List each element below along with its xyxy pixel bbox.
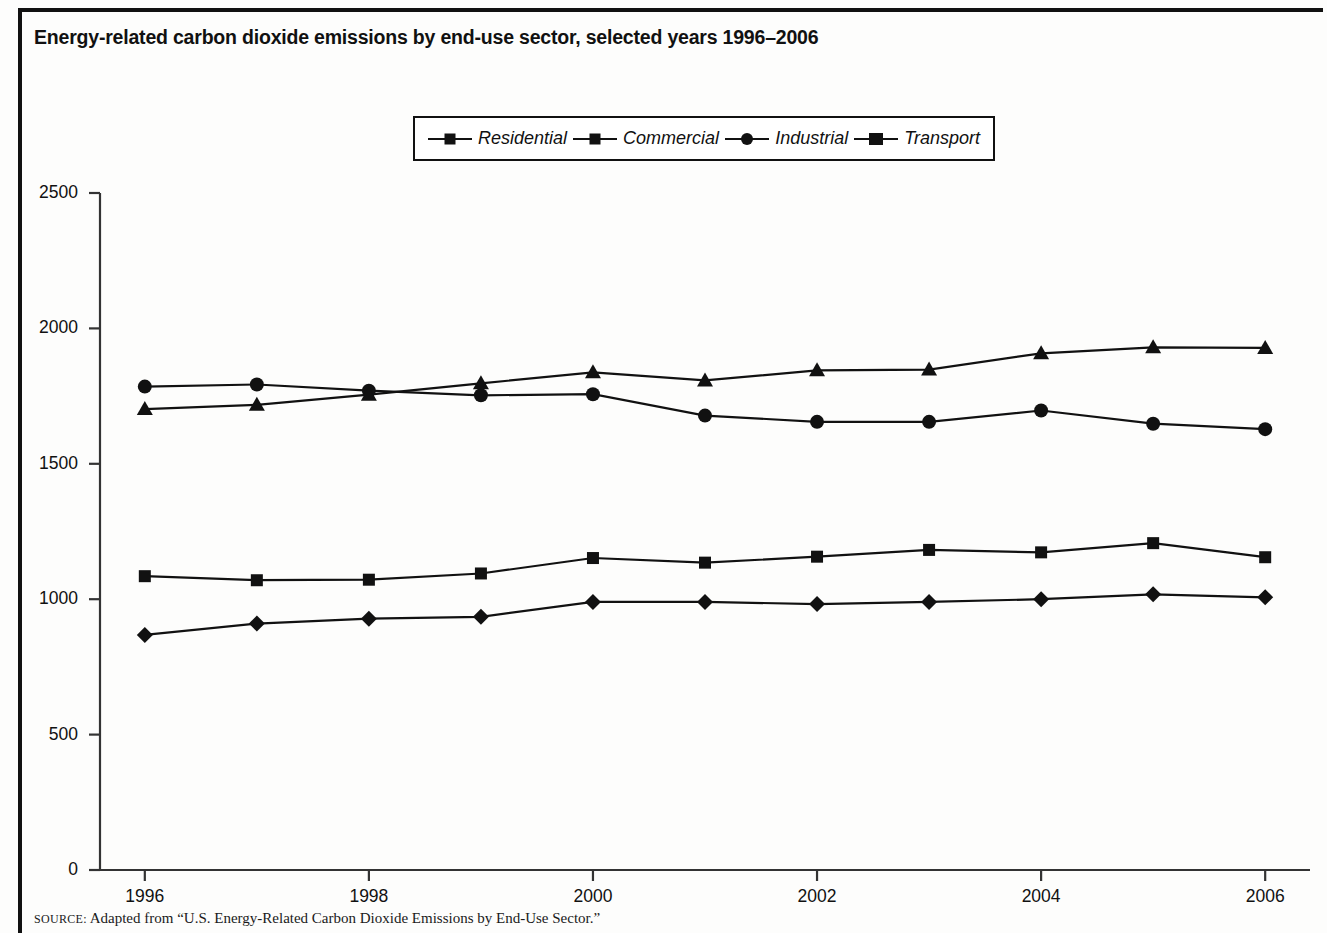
circle-marker-industrial (810, 415, 824, 429)
circle-marker-industrial (586, 387, 600, 401)
circle-marker-industrial (138, 380, 152, 394)
y-axis-tick-label: 0 (0, 859, 78, 880)
diamond-marker-commercial (809, 596, 825, 612)
x-axis-tick-label: 2000 (543, 886, 643, 907)
circle-marker-industrial (474, 388, 488, 402)
diamond-marker-commercial (921, 594, 937, 610)
legend-item-industrial[interactable]: Industrial (725, 128, 848, 149)
square-marker-residential (139, 570, 151, 582)
diamond-marker-commercial (1033, 591, 1049, 607)
square-marker-residential (1147, 537, 1159, 549)
legend-label-industrial: Industrial (775, 128, 848, 149)
x-axis-tick-label: 1996 (95, 886, 195, 907)
diamond-marker-commercial (137, 627, 153, 643)
circle-marker-industrial (1034, 403, 1048, 417)
chart-series (137, 339, 1273, 643)
legend-label-commercial: Commercial (623, 128, 719, 149)
x-axis-tick-label: 2004 (991, 886, 1091, 907)
diamond-marker-commercial (1257, 589, 1273, 605)
circle-marker-industrial (698, 409, 712, 423)
y-axis-tick-label: 500 (0, 724, 78, 745)
square-marker-residential (363, 574, 375, 586)
triangle-marker-transport (585, 364, 601, 378)
square-marker-residential (1259, 551, 1271, 563)
square-marker-icon (428, 132, 472, 146)
diamond-marker-commercial (1145, 586, 1161, 602)
square-marker-residential (475, 567, 487, 579)
chart-figure: Energy-related carbon dioxide emissions … (0, 0, 1327, 933)
legend-label-residential: Residential (478, 128, 567, 149)
square-marker-residential (699, 557, 711, 569)
circle-marker-industrial (922, 415, 936, 429)
legend-item-transport[interactable]: Transport (854, 128, 980, 149)
y-axis-tick-label: 2000 (0, 317, 78, 338)
series-transport (137, 339, 1273, 415)
x-axis-tick-label: 2002 (767, 886, 867, 907)
legend-item-residential[interactable]: Residential (428, 128, 567, 149)
square-marker-residential (923, 544, 935, 556)
series-commercial (137, 586, 1273, 643)
legend-label-transport: Transport (904, 128, 980, 149)
square-marker-residential (251, 574, 263, 586)
y-axis-tick-label: 2500 (0, 182, 78, 203)
square-marker-residential (1035, 546, 1047, 558)
source-prefix: SOURCE: (34, 912, 87, 926)
legend-item-commercial[interactable]: Commercial (573, 128, 719, 149)
square-marker-residential (587, 552, 599, 564)
diamond-marker-icon (573, 132, 617, 146)
y-axis-tick-label: 1000 (0, 588, 78, 609)
series-residential (139, 537, 1271, 586)
diamond-marker-commercial (697, 594, 713, 610)
y-axis-tick-label: 1500 (0, 453, 78, 474)
square-marker-residential (811, 551, 823, 563)
circle-marker-industrial (1146, 417, 1160, 431)
chart-axes (89, 193, 1310, 881)
triangle-marker-icon (854, 132, 898, 146)
diamond-marker-commercial (361, 611, 377, 627)
diamond-marker-commercial (585, 594, 601, 610)
chart-source-note: SOURCE: Adapted from “U.S. Energy-Relate… (34, 910, 600, 927)
diamond-marker-commercial (473, 609, 489, 625)
x-axis-tick-label: 1998 (319, 886, 419, 907)
chart-legend: Residential Commercial Industrial Transp… (413, 116, 995, 161)
diamond-marker-commercial (249, 616, 265, 632)
source-text: Adapted from “U.S. Energy-Related Carbon… (87, 910, 600, 926)
circle-marker-industrial (1258, 422, 1272, 436)
circle-marker-industrial (250, 377, 264, 391)
circle-marker-icon (725, 132, 769, 146)
x-axis-tick-label: 2006 (1215, 886, 1315, 907)
